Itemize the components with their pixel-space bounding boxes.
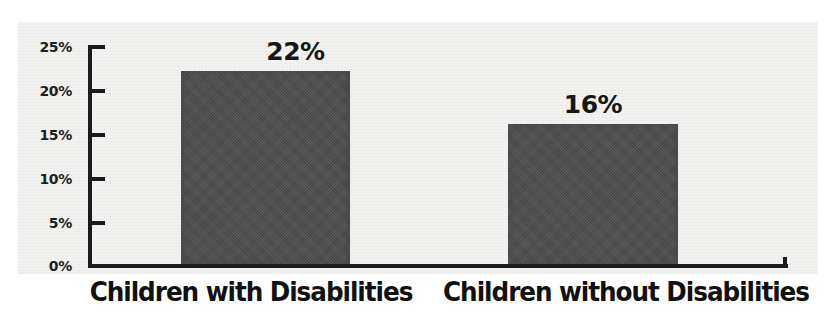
bar-children-with-disabilities — [181, 71, 350, 264]
y-tick-mark-15 — [88, 133, 105, 137]
y-tick-label-15: 15% — [14, 127, 72, 143]
y-tick-label-0: 0% — [14, 258, 72, 274]
plot-background — [18, 22, 818, 274]
y-axis-line — [88, 45, 92, 268]
bar-value-label-22: 22% — [211, 37, 380, 66]
category-label-children-with-disabilities: Children with Disabilities — [80, 277, 422, 307]
y-tick-label-25: 25% — [14, 39, 72, 55]
y-tick-mark-5 — [88, 221, 105, 225]
y-tick-label-10: 10% — [14, 171, 72, 187]
y-tick-label-5: 5% — [14, 215, 72, 231]
bar-value-label-16: 16% — [508, 90, 678, 119]
bar-children-without-disabilities — [508, 124, 678, 264]
y-tick-mark-20 — [88, 89, 105, 93]
x-axis-end-tick — [783, 257, 787, 266]
y-tick-label-20: 20% — [14, 83, 72, 99]
y-tick-mark-25 — [88, 45, 105, 49]
bar-chart-figure: 25% 20% 15% 10% 5% 0% 22% 16% Children w… — [0, 0, 837, 334]
x-axis-line — [88, 264, 788, 268]
category-label-children-without-disabilities: Children without Disabilities — [430, 277, 821, 307]
y-tick-mark-10 — [88, 177, 105, 181]
